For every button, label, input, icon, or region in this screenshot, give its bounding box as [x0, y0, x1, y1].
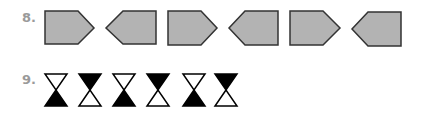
pentagon-left-shape: [106, 11, 156, 44]
pentagon-right-shape: [290, 11, 340, 45]
pattern-shapes: [0, 0, 425, 125]
pentagon-right-shape: [168, 11, 217, 45]
problem-8-pattern: [45, 11, 401, 46]
pentagon-left-shape: [229, 11, 278, 45]
problem-9-pattern: [45, 74, 237, 106]
pentagon-right-shape: [45, 11, 94, 44]
pentagon-left-shape: [352, 12, 401, 46]
